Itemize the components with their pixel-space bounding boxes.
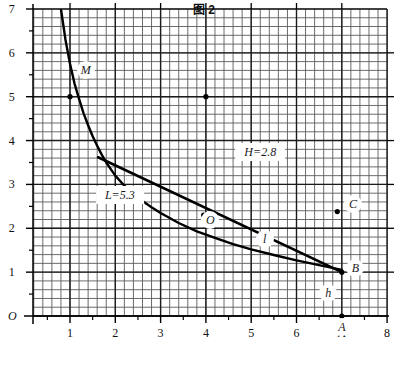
x-axis-tick-label-1: 1	[67, 327, 73, 339]
grid-minor-lines	[33, 9, 387, 316]
x-axis-tick-label-4: 4	[203, 327, 209, 339]
label-l: l	[256, 230, 274, 248]
x-axis-tick-label-5: 5	[248, 327, 254, 339]
label-O-curve: O	[201, 211, 219, 229]
label-h: h	[319, 284, 337, 302]
point-left-upper-marker	[67, 94, 72, 99]
label-H: H=2.8	[235, 143, 285, 161]
x-axis-tick-label-2: 2	[112, 327, 118, 339]
hyperbola-curve	[61, 9, 342, 270]
y-axis-tick-label-2: 2	[9, 222, 15, 234]
y-axis-tick-label-4: 4	[9, 135, 15, 147]
x-axis-tick-label-3: 3	[158, 327, 164, 339]
figure-caption: 图 2	[0, 0, 408, 17]
label-M: M	[77, 61, 95, 79]
y-axis-tick-label-5: 5	[9, 91, 15, 103]
x-axis-tick-label-6: 6	[294, 327, 300, 339]
label-C: C	[344, 195, 362, 213]
origin-label: O	[8, 310, 17, 322]
label-A: A	[333, 318, 351, 336]
y-axis-tick-label-1: 1	[9, 266, 15, 278]
y-axis-tick-label-3: 3	[9, 178, 15, 190]
point-B-marker	[339, 270, 344, 275]
axis-ticks	[26, 3, 394, 323]
point-C-marker	[335, 209, 340, 214]
label-L: L=5.3	[96, 186, 144, 204]
figure-container: 123456A81234567OML=5.3H=2.8lhOCBA 图 2	[0, 0, 408, 376]
point-M-marker	[203, 94, 208, 99]
y-axis-tick-label-6: 6	[9, 47, 15, 59]
label-B: B	[346, 259, 364, 277]
x-axis-tick-label-8: 8	[384, 327, 390, 339]
grid-major-lines	[33, 9, 387, 316]
